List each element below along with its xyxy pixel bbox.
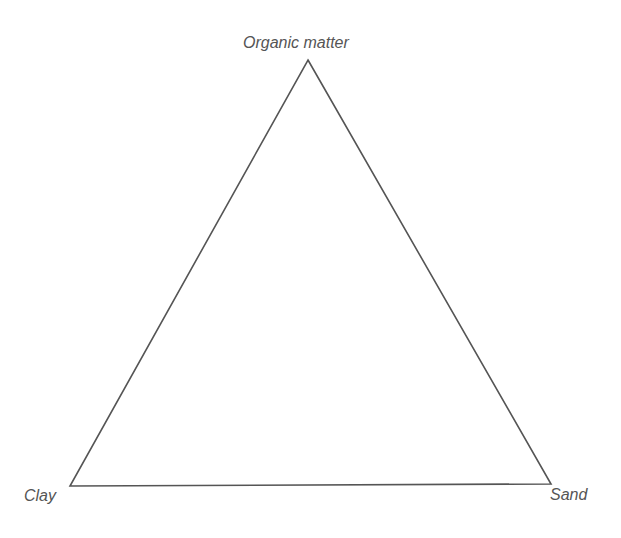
ternary-triangle-outline: [70, 60, 551, 486]
vertex-label-clay: Clay: [24, 487, 56, 505]
vertex-label-sand: Sand: [550, 486, 587, 504]
triangle-canvas: [0, 0, 621, 538]
vertex-label-organic-matter: Organic matter: [243, 34, 349, 52]
